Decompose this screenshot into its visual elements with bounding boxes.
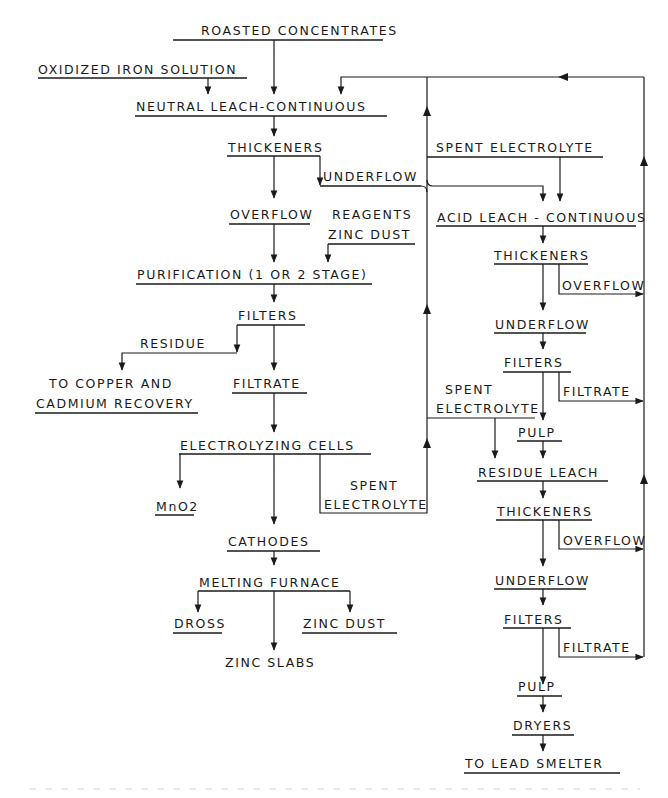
node-filters-2: FILTERS <box>503 355 571 372</box>
arrow-up-feedback-mid <box>423 304 431 314</box>
svg-text:FILTERS: FILTERS <box>238 308 297 323</box>
svg-text:ROASTED CONCENTRATES: ROASTED CONCENTRATES <box>201 23 398 38</box>
svg-text:THICKENERS: THICKENERS <box>496 504 592 519</box>
node-underflow-3: UNDERFLOW <box>494 573 590 589</box>
svg-text:DRYERS: DRYERS <box>513 718 572 733</box>
svg-text:FILTRATE: FILTRATE <box>563 384 631 399</box>
node-mno2: MnO2 <box>155 499 199 515</box>
svg-text:ZINC DUST: ZINC DUST <box>328 227 411 242</box>
node-electrolyzing-cells: ELECTROLYZING CELLS <box>179 438 371 454</box>
node-pulp-1: PULP <box>517 425 562 441</box>
arrow-up-feedback-low <box>423 438 431 448</box>
node-dryers: DRYERS <box>512 718 574 735</box>
node-spent-electrolyte-top: SPENT ELECTROLYTE <box>427 140 603 157</box>
svg-text:MELTING FURNACE: MELTING FURNACE <box>199 575 341 590</box>
node-purification: PURIFICATION (1 OR 2 STAGE) <box>136 267 372 284</box>
node-filters-1: FILTERS <box>237 308 305 325</box>
svg-text:OVERFLOW: OVERFLOW <box>562 278 645 293</box>
edge-residue-to-copper <box>122 353 237 370</box>
node-acid-leach: ACID LEACH - CONTINUOUS <box>436 210 647 226</box>
svg-text:RESIDUE: RESIDUE <box>140 336 206 351</box>
node-thickeners-2: THICKENERS <box>493 248 589 264</box>
node-roasted-concentrates: ROASTED CONCENTRATES <box>173 23 398 40</box>
node-filtrate-1: FILTRATE <box>232 376 307 393</box>
svg-text:TO COPPER AND: TO COPPER AND <box>48 376 173 391</box>
node-pulp-2: PULP <box>517 679 562 696</box>
svg-text:FILTRATE: FILTRATE <box>563 640 631 655</box>
node-underflow-1: UNDERFLOW <box>320 169 421 186</box>
node-oxidized-iron-solution: OXIDIZED IRON SOLUTION <box>38 62 247 78</box>
node-filters-3: FILTERS <box>503 612 571 628</box>
node-filtrate-2: FILTRATE <box>563 384 631 399</box>
arrow-up-right-return-high <box>640 156 648 166</box>
node-dross: DROSS <box>173 616 226 633</box>
svg-text:SPENT: SPENT <box>350 478 398 493</box>
arrow-up-right-return-low <box>640 474 648 484</box>
node-thickeners-3: THICKENERS <box>496 504 592 520</box>
svg-text:ZINC DUST: ZINC DUST <box>303 616 386 631</box>
arrow-left-top <box>558 73 568 81</box>
node-overflow-3: OVERFLOW <box>563 533 646 548</box>
edge-underflow-to-acid-leach <box>421 180 543 201</box>
svg-text:OVERFLOW: OVERFLOW <box>563 533 646 548</box>
svg-text:UNDERFLOW: UNDERFLOW <box>323 169 418 184</box>
svg-text:ELECTROLYTE: ELECTROLYTE <box>324 497 428 512</box>
svg-text:THICKENERS: THICKENERS <box>493 248 589 263</box>
node-spent-electrolyte-low: SPENT ELECTROLYTE <box>324 478 428 512</box>
svg-text:ZINC SLABS: ZINC SLABS <box>225 655 315 670</box>
edge-feedback-to-neutral-leach <box>341 77 644 94</box>
node-to-copper-cadmium: TO COPPER AND CADMIUM RECOVERY <box>35 376 198 413</box>
svg-text:DROSS: DROSS <box>174 616 226 631</box>
svg-text:OXIDIZED IRON SOLUTION: OXIDIZED IRON SOLUTION <box>38 62 237 77</box>
node-reagents: REAGENTS ZINC DUST <box>328 207 415 244</box>
svg-text:OVERFLOW: OVERFLOW <box>230 207 313 222</box>
svg-text:ELECTROLYTE: ELECTROLYTE <box>436 401 540 416</box>
svg-text:UNDERFLOW: UNDERFLOW <box>495 573 590 588</box>
svg-text:CATHODES: CATHODES <box>228 534 309 549</box>
node-spent-electrolyte-mid: SPENT ELECTROLYTE <box>436 382 540 416</box>
svg-text:CADMIUM RECOVERY: CADMIUM RECOVERY <box>36 396 194 411</box>
arrow-up-feedback-high <box>423 106 431 116</box>
svg-text:NEUTRAL LEACH-CONTINUOUS: NEUTRAL LEACH-CONTINUOUS <box>136 99 367 114</box>
svg-text:SPENT: SPENT <box>445 382 493 397</box>
svg-text:ACID LEACH - CONTINUOUS: ACID LEACH - CONTINUOUS <box>437 210 647 225</box>
svg-text:FILTERS: FILTERS <box>504 355 563 370</box>
node-residue-leach: RESIDUE LEACH <box>477 465 608 481</box>
node-filtrate-3: FILTRATE <box>563 640 631 655</box>
svg-text:PULP: PULP <box>518 425 556 440</box>
svg-text:ELECTROLYZING CELLS: ELECTROLYZING CELLS <box>180 438 355 453</box>
node-cathodes: CATHODES <box>227 534 320 551</box>
svg-text:RESIDUE LEACH: RESIDUE LEACH <box>478 465 599 480</box>
svg-text:REAGENTS: REAGENTS <box>332 207 412 222</box>
svg-text:UNDERFLOW: UNDERFLOW <box>495 317 590 332</box>
node-neutral-leach: NEUTRAL LEACH-CONTINUOUS <box>135 99 387 116</box>
zinc-process-flowchart: ROASTED CONCENTRATES OXIDIZED IRON SOLUT… <box>0 0 668 798</box>
node-to-lead-smelter: TO LEAD SMELTER <box>464 756 620 773</box>
node-overflow-1: OVERFLOW <box>229 207 313 224</box>
svg-text:PURIFICATION (1 OR 2 STAGE): PURIFICATION (1 OR 2 STAGE) <box>137 267 368 282</box>
node-melting-furnace: MELTING FURNACE <box>198 575 350 591</box>
node-zinc-dust-product: ZINC DUST <box>302 616 397 633</box>
node-thickeners-1: THICKENERS <box>227 140 323 156</box>
svg-text:SPENT ELECTROLYTE: SPENT ELECTROLYTE <box>436 140 594 155</box>
node-zinc-slabs: ZINC SLABS <box>225 655 315 670</box>
svg-text:FILTRATE: FILTRATE <box>233 376 301 391</box>
svg-text:TO LEAD SMELTER: TO LEAD SMELTER <box>464 756 604 771</box>
node-underflow-2: UNDERFLOW <box>494 317 590 333</box>
node-residue: RESIDUE <box>140 336 206 351</box>
svg-text:PULP: PULP <box>518 679 556 694</box>
svg-text:MnO2: MnO2 <box>156 499 199 514</box>
node-overflow-2: OVERFLOW <box>562 278 645 293</box>
svg-text:THICKENERS: THICKENERS <box>227 140 323 155</box>
svg-text:FILTERS: FILTERS <box>504 612 563 627</box>
